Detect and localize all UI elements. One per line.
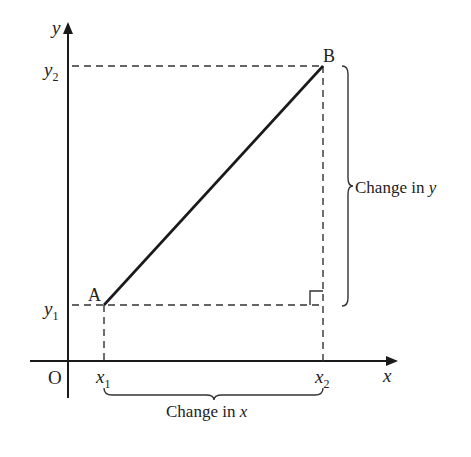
point-a-label: A [88, 285, 101, 305]
x-axis-label: x [382, 365, 392, 386]
line-segment-ab [104, 66, 323, 305]
y1-label: y1 [42, 298, 58, 323]
right-angle-marker [310, 291, 323, 305]
x1-label: x1 [95, 366, 110, 391]
change-in-y-label: Change in y [355, 178, 437, 197]
point-b-label: B [323, 46, 335, 66]
x2-label: x2 [314, 366, 329, 391]
vertical-brace [342, 66, 353, 306]
change-in-x-label: Change in x [166, 402, 248, 421]
horizontal-brace [104, 388, 323, 400]
y-axis-label: y [50, 17, 61, 38]
origin-label: O [48, 367, 62, 388]
y2-label: y2 [42, 59, 58, 84]
gradient-diagram: y x O A B y2 y1 x1 x2 Change in y Change… [0, 0, 471, 457]
